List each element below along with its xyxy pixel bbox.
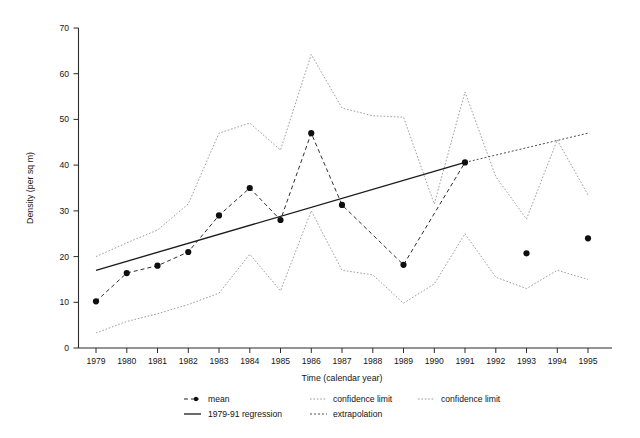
mean-data-point — [585, 235, 591, 241]
legend-marker-mean-dot — [194, 397, 198, 401]
y-tick-label: 60 — [59, 69, 69, 79]
y-tick-label: 0 — [64, 343, 69, 353]
legend-label-confidence-limit-2: confidence limit — [441, 394, 501, 404]
y-tick-label: 20 — [59, 252, 69, 262]
regression-line — [96, 162, 465, 270]
x-tick-label: 1983 — [209, 356, 228, 366]
y-tick-label: 70 — [59, 23, 69, 33]
mean-data-point — [462, 159, 468, 165]
legend-entry-regression: 1979-91 regression — [184, 409, 282, 419]
x-tick-label: 1982 — [179, 356, 198, 366]
legend-label-extrapolation: extrapolation — [333, 409, 382, 419]
x-axis-title: Time (calendar year) — [302, 373, 383, 383]
mean-data-point — [400, 262, 406, 268]
x-axis-ticks: 1979 1980 1981 1982 1983 1984 1985 1986 … — [86, 348, 597, 366]
mean-data-point — [339, 202, 345, 208]
x-tick-label: 1985 — [271, 356, 290, 366]
chart-svg: 0 10 20 30 40 50 60 70 Density (per sq m… — [0, 0, 640, 438]
chart-legend: mean confidence limit confidence limit 1… — [184, 394, 501, 419]
confidence-limit-upper-line — [96, 55, 588, 257]
y-tick-label: 40 — [59, 160, 69, 170]
x-tick-label: 1992 — [486, 356, 505, 366]
mean-data-point — [523, 250, 529, 256]
mean-data-point — [216, 212, 222, 218]
confidence-limit-lower-line — [96, 211, 588, 333]
mean-data-point — [185, 249, 191, 255]
legend-label-confidence-limit-1: confidence limit — [333, 394, 393, 404]
mean-data-point — [277, 217, 283, 223]
chart-figure: 0 10 20 30 40 50 60 70 Density (per sq m… — [0, 0, 640, 438]
x-tick-label: 1980 — [117, 356, 136, 366]
mean-data-points — [93, 130, 591, 304]
x-tick-label: 1990 — [425, 356, 444, 366]
legend-label-mean: mean — [208, 394, 230, 404]
legend-entry-confidence-limit-1: confidence limit — [310, 394, 393, 404]
x-tick-label: 1994 — [548, 356, 567, 366]
y-tick-label: 50 — [59, 114, 69, 124]
x-tick-label: 1984 — [240, 356, 259, 366]
mean-data-point — [308, 130, 314, 136]
mean-data-point — [93, 298, 99, 304]
x-tick-label: 1986 — [302, 356, 321, 366]
mean-data-point — [154, 263, 160, 269]
legend-entry-extrapolation: extrapolation — [310, 409, 382, 419]
x-tick-label: 1995 — [578, 356, 597, 366]
y-axis-ticks: 0 10 20 30 40 50 60 70 — [59, 23, 78, 353]
x-tick-label: 1981 — [148, 356, 167, 366]
y-tick-label: 10 — [59, 297, 69, 307]
x-tick-label: 1979 — [86, 356, 105, 366]
legend-entry-confidence-limit-2: confidence limit — [418, 394, 501, 404]
axes-group — [79, 28, 613, 348]
legend-label-regression: 1979-91 regression — [208, 409, 282, 419]
x-tick-label: 1991 — [455, 356, 474, 366]
mean-data-point — [247, 185, 253, 191]
x-tick-label: 1989 — [394, 356, 413, 366]
extrapolation-line — [465, 133, 588, 162]
mean-data-point — [124, 270, 130, 276]
x-tick-label: 1988 — [363, 356, 382, 366]
y-tick-label: 30 — [59, 206, 69, 216]
x-tick-label: 1993 — [517, 356, 536, 366]
legend-entry-mean: mean — [184, 394, 230, 404]
y-axis-title: Density (per sq m) — [25, 152, 35, 224]
x-tick-label: 1987 — [332, 356, 351, 366]
plot-area — [93, 55, 591, 333]
